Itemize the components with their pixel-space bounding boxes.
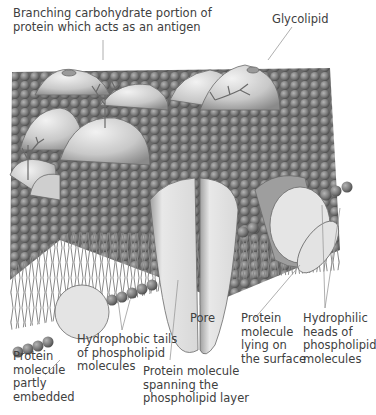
label-protein-surface: Protein molecule lying on the surface xyxy=(241,312,306,366)
label-protein-partly-embedded: Protein molecule partly embedded xyxy=(13,350,75,404)
label-carbohydrate: Branching carbohydrate portion of protei… xyxy=(13,7,212,34)
label-hydrophilic-heads: Hydrophilic heads of phospholipid molecu… xyxy=(303,312,376,366)
label-glycolipid: Glycolipid xyxy=(272,13,328,27)
label-pore: Pore xyxy=(190,312,215,326)
spanning-protein xyxy=(150,178,238,354)
embedded-protein xyxy=(55,285,109,339)
label-protein-spanning: Protein molecule spanning the phospholip… xyxy=(143,365,249,406)
